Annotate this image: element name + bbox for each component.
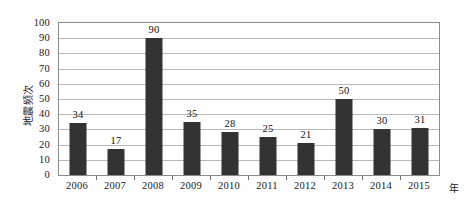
y-axis-tick-label: 20 <box>39 138 50 149</box>
y-axis-tick-label: 70 <box>39 62 50 73</box>
bar <box>222 132 239 175</box>
bar <box>108 149 125 175</box>
y-axis-tick-label: 40 <box>39 108 50 119</box>
bar-value-label: 50 <box>339 85 350 96</box>
y-axis-tick-label: 10 <box>39 153 50 164</box>
x-axis-tick-label: 2012 <box>294 180 316 191</box>
bar-value-label: 21 <box>301 129 312 140</box>
y-axis-tick-label: 60 <box>39 77 50 88</box>
bar-value-label: 28 <box>225 118 236 129</box>
bar-slot: 21 <box>287 23 325 175</box>
x-axis-title: 年 <box>449 180 459 195</box>
bar-value-label: 31 <box>415 114 426 125</box>
bar <box>412 128 429 175</box>
bar <box>298 143 315 175</box>
y-axis-tick-label: 100 <box>34 17 50 28</box>
bar-slot: 50 <box>325 23 363 175</box>
bar-slot: 28 <box>211 23 249 175</box>
bar-value-label: 90 <box>149 24 160 35</box>
chart-screenshot: 地震频次 0102030405060708090100 341790352825… <box>0 0 472 209</box>
bar-slot: 30 <box>363 23 401 175</box>
bar-slot: 34 <box>59 23 97 175</box>
x-axis-tick-label: 2011 <box>256 180 277 191</box>
y-axis-tick-label: 0 <box>45 169 50 180</box>
bar <box>146 38 163 175</box>
bar-slot: 90 <box>135 23 173 175</box>
bar <box>260 137 277 175</box>
y-axis-tick-label: 50 <box>39 93 50 104</box>
bar-slot: 35 <box>173 23 211 175</box>
bar-slot: 25 <box>249 23 287 175</box>
bar-slot: 31 <box>401 23 439 175</box>
y-axis-tick-labels: 0102030405060708090100 <box>0 22 55 176</box>
bar <box>70 123 87 175</box>
x-axis-tick-label: 2013 <box>332 180 354 191</box>
x-axis-tick-label: 2009 <box>180 180 202 191</box>
y-axis-tick-label: 30 <box>39 123 50 134</box>
x-axis-tick-label: 2007 <box>104 180 126 191</box>
x-axis-tick-label: 2010 <box>218 180 240 191</box>
x-axis-tick-label: 2008 <box>142 180 164 191</box>
bar-value-label: 34 <box>73 109 84 120</box>
bar <box>336 99 353 175</box>
x-axis-tick-label: 2006 <box>66 180 88 191</box>
y-axis-tick-label: 80 <box>39 47 50 58</box>
bar-slot: 17 <box>97 23 135 175</box>
bar-value-label: 25 <box>263 123 274 134</box>
bar-value-label: 35 <box>187 108 198 119</box>
x-axis-tick-labels: 2006200720082009201020112012201320142015 <box>58 180 440 198</box>
bar <box>374 129 391 175</box>
bar <box>184 122 201 175</box>
y-axis-tick-label: 90 <box>39 32 50 43</box>
plot-area: 34179035282521503031 <box>58 22 440 176</box>
x-axis-tick-label: 2015 <box>408 180 430 191</box>
bar-value-label: 30 <box>377 115 388 126</box>
bar-value-label: 17 <box>111 135 122 146</box>
x-axis-tick-label: 2014 <box>370 180 392 191</box>
